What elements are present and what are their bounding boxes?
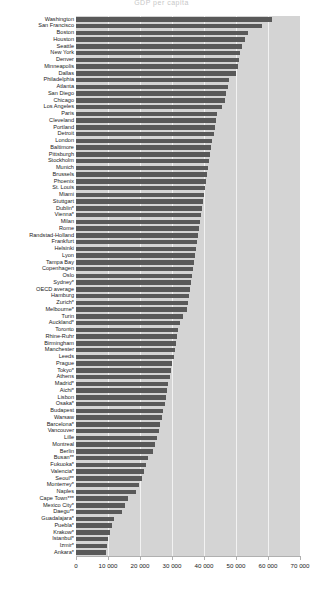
bar bbox=[76, 145, 211, 149]
bar-category-label: Puebla* bbox=[54, 522, 74, 529]
bar-row: Lille bbox=[0, 435, 323, 442]
bar-category-label: Auckland* bbox=[49, 319, 74, 326]
chart-title: GDP per capita bbox=[0, 0, 323, 7]
bar bbox=[76, 199, 203, 203]
bar-row: Vienna* bbox=[0, 212, 323, 219]
bar-row: Berlin bbox=[0, 448, 323, 455]
bar bbox=[76, 436, 157, 440]
bar-category-label: Vienna* bbox=[55, 211, 75, 218]
bar-category-label: Athens bbox=[57, 373, 74, 380]
bar bbox=[76, 361, 172, 365]
bar-category-label: London bbox=[55, 137, 74, 144]
bar-category-label: Los Angeles bbox=[44, 103, 74, 110]
bar-row: Osaka* bbox=[0, 401, 323, 408]
bar-category-label: Atlanta bbox=[57, 83, 74, 90]
bar bbox=[76, 287, 190, 291]
bar bbox=[76, 429, 159, 433]
bar-category-label: Lisbon bbox=[58, 394, 74, 401]
bar-category-label: Minneapolis bbox=[44, 63, 74, 70]
bar bbox=[76, 368, 171, 372]
bar-category-label: Milan bbox=[61, 218, 74, 225]
bar-category-label: Rhine-Ruhr bbox=[45, 333, 74, 340]
bar bbox=[76, 172, 207, 176]
bar bbox=[76, 375, 170, 379]
bar-row: Guadalajara* bbox=[0, 516, 323, 523]
bar-row: New York bbox=[0, 50, 323, 57]
bar-row: San Francisco bbox=[0, 23, 323, 30]
bar bbox=[76, 78, 229, 82]
bar-row: OECD average bbox=[0, 286, 323, 293]
bar-category-label: Busan** bbox=[54, 454, 74, 461]
bar-row: Tokyo* bbox=[0, 367, 323, 374]
bar-category-label: Aichi* bbox=[60, 387, 74, 394]
bar-category-label: Izmir* bbox=[60, 542, 74, 549]
bar-row: Auckland* bbox=[0, 320, 323, 327]
x-axis-tick-label: 0 bbox=[74, 562, 77, 570]
bar-category-label: Mexico City* bbox=[43, 502, 74, 509]
x-axis-tick-label: 50 000 bbox=[227, 562, 246, 570]
bar-category-label: Monterrey* bbox=[47, 481, 74, 488]
bar-row: London bbox=[0, 138, 323, 145]
x-axis-tick bbox=[204, 556, 205, 560]
bar bbox=[76, 253, 195, 257]
bar-category-label: OECD average bbox=[36, 286, 74, 293]
bar-row: Melbourne* bbox=[0, 306, 323, 313]
bar-category-label: Seattle bbox=[57, 43, 74, 50]
bar-category-label: Turin bbox=[61, 313, 74, 320]
bar-category-label: Lyon bbox=[62, 252, 74, 259]
bar bbox=[76, 213, 201, 217]
bar-category-label: Pittsburgh bbox=[49, 151, 74, 158]
bar bbox=[76, 233, 198, 237]
bar bbox=[76, 550, 106, 554]
bar-category-label: St. Louis bbox=[52, 184, 74, 191]
bar bbox=[76, 341, 176, 345]
bar-row: Athens bbox=[0, 374, 323, 381]
bar-row: Dublin* bbox=[0, 205, 323, 212]
bar-row: Milan bbox=[0, 219, 323, 226]
bar-row: Fukuoka* bbox=[0, 462, 323, 469]
bar bbox=[76, 206, 202, 210]
bar-row: Lisbon bbox=[0, 394, 323, 401]
bar-category-label: Dallas bbox=[58, 70, 74, 77]
bar bbox=[76, 105, 222, 109]
bar-category-label: Birmingham bbox=[44, 340, 74, 347]
bar bbox=[76, 118, 216, 122]
bar bbox=[76, 44, 242, 48]
bar bbox=[76, 490, 136, 494]
bar-category-label: Montreal bbox=[52, 441, 74, 448]
bar bbox=[76, 85, 228, 89]
bar bbox=[76, 139, 212, 143]
bar bbox=[76, 112, 217, 116]
bar bbox=[76, 476, 142, 480]
bar-row: Vancouver bbox=[0, 428, 323, 435]
bar bbox=[76, 422, 160, 426]
bar bbox=[76, 415, 162, 419]
x-axis-tick-label: 30 000 bbox=[163, 562, 182, 570]
bar bbox=[76, 510, 122, 514]
bar-category-label: Detroit bbox=[58, 130, 74, 137]
bar bbox=[76, 537, 108, 541]
bar bbox=[76, 220, 200, 224]
bar bbox=[76, 91, 226, 95]
bar-row: St. Louis bbox=[0, 185, 323, 192]
x-axis-tick-label: 10 000 bbox=[99, 562, 118, 570]
bar-category-label: Portland bbox=[53, 124, 74, 131]
bar-category-label: Stockholm bbox=[48, 157, 74, 164]
bar-category-label: Ankara* bbox=[54, 549, 74, 556]
bar-category-label: Istanbul* bbox=[52, 535, 74, 542]
bar-row: Cleveland bbox=[0, 117, 323, 124]
bar bbox=[76, 483, 139, 487]
bar-row: Seattle bbox=[0, 43, 323, 50]
bar-row: Munich bbox=[0, 165, 323, 172]
x-axis-tick-label: 70 000 bbox=[291, 562, 310, 570]
bar bbox=[76, 517, 114, 521]
bar bbox=[76, 71, 236, 75]
bar-category-label: Philadelphia bbox=[44, 76, 74, 83]
bar-category-label: Tampa Bay bbox=[46, 259, 74, 266]
bar-row: Krakow* bbox=[0, 529, 323, 536]
bar-category-label: Frankfurt bbox=[52, 238, 74, 245]
bar bbox=[76, 159, 209, 163]
bar-category-label: Stuttgart bbox=[53, 198, 74, 205]
bar-row: Philadelphia bbox=[0, 77, 323, 84]
bar bbox=[76, 328, 178, 332]
